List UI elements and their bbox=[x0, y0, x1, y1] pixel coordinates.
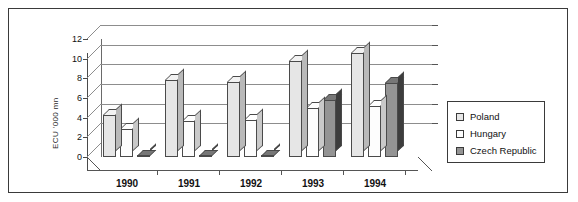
x-axis-tick bbox=[281, 170, 282, 175]
gridline-riser bbox=[87, 45, 103, 61]
bar-front-face bbox=[289, 61, 302, 157]
y-axis-tick-label: 0 bbox=[77, 152, 82, 162]
bar-front-face bbox=[103, 115, 116, 157]
bar-front-face bbox=[165, 80, 178, 157]
y-axis-tick bbox=[83, 118, 88, 119]
bar-group bbox=[227, 39, 289, 157]
gridline-riser bbox=[87, 123, 103, 139]
y-axis-tick-label: 2 bbox=[77, 132, 82, 142]
legend-swatch-hungary bbox=[456, 130, 464, 138]
legend-item-czech-republic: Czech Republic bbox=[456, 142, 544, 159]
bar-front-face bbox=[261, 155, 274, 157]
legend-item-poland: Poland bbox=[456, 108, 544, 125]
y-axis-tick-label: 4 bbox=[77, 112, 82, 122]
bar-poland-1992 bbox=[227, 82, 240, 157]
gridline-riser bbox=[87, 104, 103, 120]
bar-poland-1994 bbox=[351, 53, 364, 157]
gridline-riser bbox=[87, 84, 103, 100]
bar-front-face bbox=[199, 155, 212, 157]
y-axis-title-label: ECU '000 mn bbox=[51, 97, 60, 149]
right-axis-tick bbox=[432, 45, 438, 46]
bar-side-face bbox=[116, 103, 122, 151]
bar-side-face bbox=[240, 71, 246, 151]
x-axis-label-1992: 1992 bbox=[240, 178, 262, 189]
y-axis-tick-label: 6 bbox=[77, 93, 82, 103]
y-axis-tick bbox=[83, 137, 88, 138]
right-axis-tick bbox=[432, 104, 438, 105]
x-axis-tick bbox=[405, 170, 406, 175]
legend-swatch-poland bbox=[456, 113, 464, 121]
right-axis-tick bbox=[432, 123, 438, 124]
y-axis-tick-label: 12 bbox=[72, 34, 82, 44]
right-axis-tick bbox=[432, 84, 438, 85]
floor-right-edge bbox=[418, 157, 436, 173]
right-axis-tick bbox=[432, 64, 438, 65]
x-axis-tick bbox=[219, 170, 220, 175]
y-axis-tick bbox=[83, 98, 88, 99]
y-axis-tick-label: 8 bbox=[77, 73, 82, 83]
bar-side-face bbox=[302, 49, 308, 151]
right-axis-tick bbox=[432, 25, 438, 26]
bar-czech-republic-1992 bbox=[261, 156, 274, 158]
y-axis-tick bbox=[83, 39, 88, 40]
bar-front-face bbox=[137, 155, 150, 157]
floor-left-edge bbox=[87, 157, 101, 171]
bar-front-face bbox=[227, 82, 240, 157]
bar-side-face bbox=[178, 69, 184, 151]
y-axis-tick bbox=[83, 59, 88, 60]
legend-label-poland: Poland bbox=[470, 111, 500, 122]
chart-figure: ECU '000 mn 024681012 199019911992199319… bbox=[8, 8, 568, 193]
y-axis-tick bbox=[83, 78, 88, 79]
bar-poland-1993 bbox=[289, 61, 302, 157]
x-axis-tick bbox=[157, 170, 158, 175]
legend-label-hungary: Hungary bbox=[470, 128, 506, 139]
bar-poland-1990 bbox=[103, 115, 116, 157]
x-axis-tick bbox=[343, 170, 344, 175]
bar-side-face bbox=[336, 89, 342, 151]
bar-side-face bbox=[364, 41, 370, 151]
bar-czech-republic-1990 bbox=[137, 156, 150, 158]
plot-floor bbox=[87, 157, 432, 171]
bar-side-face bbox=[398, 72, 404, 151]
bar-group bbox=[165, 39, 227, 157]
bar-side-face bbox=[133, 118, 139, 151]
legend-swatch-czech-republic bbox=[456, 147, 464, 155]
bar-poland-1991 bbox=[165, 80, 178, 157]
floor-front-edge bbox=[87, 170, 418, 171]
legend-item-hungary: Hungary bbox=[456, 125, 544, 142]
x-axis-label-1994: 1994 bbox=[364, 178, 386, 189]
plot-area: 024681012 19901991199219931994 bbox=[87, 39, 432, 171]
x-axis-label-1990: 1990 bbox=[116, 178, 138, 189]
bar-front-face bbox=[351, 53, 364, 157]
bar-side-face bbox=[319, 96, 325, 151]
x-axis-label-1993: 1993 bbox=[302, 178, 324, 189]
bar-group bbox=[289, 39, 351, 157]
bar-group bbox=[103, 39, 165, 157]
bar-group bbox=[351, 39, 413, 157]
chart-legend: Poland Hungary Czech Republic bbox=[447, 101, 545, 163]
gridline-riser bbox=[87, 64, 103, 80]
bar-side-face bbox=[381, 94, 387, 151]
bar-czech-republic-1991 bbox=[199, 156, 212, 158]
x-axis-label-1991: 1991 bbox=[178, 178, 200, 189]
y-axis-tick-label: 10 bbox=[72, 53, 82, 63]
gridline bbox=[101, 25, 432, 26]
legend-label-czech-republic: Czech Republic bbox=[470, 145, 537, 156]
gridline-riser bbox=[87, 25, 103, 41]
bar-side-face bbox=[195, 109, 201, 151]
y-axis-title: ECU '000 mn bbox=[39, 71, 55, 151]
bar-side-face bbox=[257, 108, 263, 151]
